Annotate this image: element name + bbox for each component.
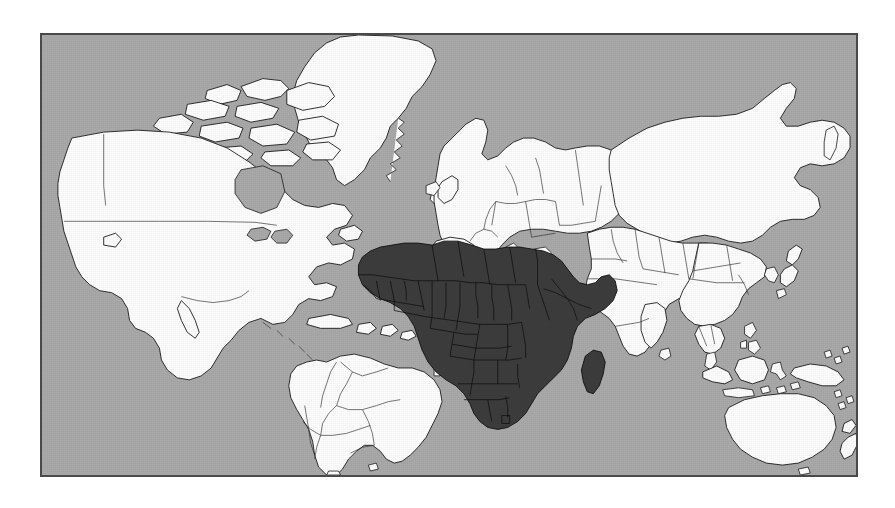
world-map-svg[interactable] <box>42 35 856 475</box>
figure-container <box>0 0 895 508</box>
world-map-frame <box>40 33 858 477</box>
